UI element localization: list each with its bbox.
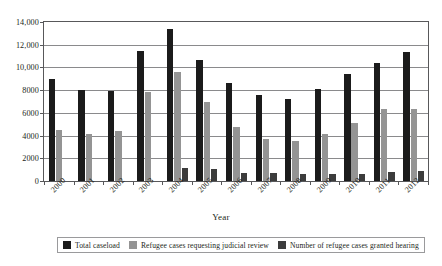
bar bbox=[411, 109, 417, 181]
x-axis-tick bbox=[74, 182, 75, 185]
bar bbox=[204, 102, 210, 181]
legend-swatch-icon bbox=[129, 241, 137, 249]
bar bbox=[403, 52, 409, 181]
bar bbox=[108, 91, 114, 181]
bar bbox=[344, 74, 350, 181]
bar bbox=[263, 139, 269, 181]
bar bbox=[351, 123, 357, 181]
bars-layer bbox=[44, 22, 428, 181]
bar-group bbox=[256, 22, 277, 181]
y-axis-tick bbox=[40, 181, 43, 182]
y-axis-tick-label: 2000 bbox=[22, 154, 39, 163]
bar bbox=[196, 60, 202, 181]
bar bbox=[315, 89, 321, 181]
x-axis-tick bbox=[251, 182, 252, 185]
bar-group bbox=[137, 22, 158, 181]
legend-label: Number of refugee cases granted hearing bbox=[290, 241, 419, 250]
x-axis-tick bbox=[162, 182, 163, 185]
bar bbox=[115, 131, 121, 181]
chart-legend: Total caseloadRefugee cases requesting j… bbox=[57, 237, 425, 253]
x-axis-tick bbox=[44, 182, 45, 185]
bar bbox=[233, 127, 239, 182]
y-axis-tick bbox=[40, 90, 43, 91]
bar bbox=[174, 72, 180, 181]
y-axis-labels: 0200040006000800010,00012,00014,000 bbox=[0, 21, 39, 182]
bar-group bbox=[374, 22, 395, 181]
x-axis-tick bbox=[428, 182, 429, 185]
x-axis-labels: 2000200120022003200420052006200720082009… bbox=[0, 186, 442, 212]
x-axis-tick bbox=[103, 182, 104, 185]
legend-item: Total caseload bbox=[63, 241, 120, 250]
bar bbox=[56, 130, 62, 181]
bar bbox=[322, 134, 328, 181]
bar bbox=[374, 63, 380, 181]
bar-group bbox=[196, 22, 217, 181]
legend-label: Total caseload bbox=[75, 241, 120, 250]
x-axis-tick bbox=[369, 182, 370, 185]
x-axis-tick bbox=[339, 182, 340, 185]
bar-group bbox=[78, 22, 99, 181]
x-axis-tick bbox=[192, 182, 193, 185]
legend-swatch-icon bbox=[63, 241, 71, 249]
y-axis-tick bbox=[40, 22, 43, 23]
x-axis-tick bbox=[398, 182, 399, 185]
x-axis-title: Year bbox=[0, 212, 442, 222]
bar-group bbox=[167, 22, 188, 181]
legend-item: Refugee cases requesting judicial review bbox=[129, 241, 269, 250]
bar bbox=[256, 95, 262, 181]
bar-chart: 0200040006000800010,00012,00014,000 2000… bbox=[0, 0, 442, 266]
bar bbox=[226, 83, 232, 181]
x-axis-tick bbox=[280, 182, 281, 185]
y-axis-tick-label: 0 bbox=[35, 177, 39, 186]
y-axis-tick bbox=[40, 158, 43, 159]
legend-swatch-icon bbox=[278, 241, 286, 249]
bar-group bbox=[403, 22, 424, 181]
y-axis-tick bbox=[40, 113, 43, 114]
y-axis-tick-label: 12,000 bbox=[16, 40, 39, 49]
x-axis-tick bbox=[133, 182, 134, 185]
bar bbox=[86, 134, 92, 181]
bar bbox=[381, 109, 387, 181]
bar-group bbox=[226, 22, 247, 181]
bar-group bbox=[344, 22, 365, 181]
y-axis-tick-label: 6000 bbox=[22, 108, 39, 117]
y-axis-tick bbox=[40, 136, 43, 137]
legend-label: Refugee cases requesting judicial review bbox=[141, 241, 269, 250]
y-axis-tick-label: 10,000 bbox=[16, 63, 39, 72]
bar bbox=[137, 51, 143, 181]
bar-group bbox=[108, 22, 129, 181]
y-axis-tick bbox=[40, 45, 43, 46]
y-axis-tick-label: 14,000 bbox=[16, 18, 39, 27]
bar bbox=[167, 29, 173, 181]
bar bbox=[285, 99, 291, 181]
x-axis-tick bbox=[310, 182, 311, 185]
bar-group bbox=[49, 22, 70, 181]
x-axis-tick bbox=[221, 182, 222, 185]
legend-item: Number of refugee cases granted hearing bbox=[278, 241, 419, 250]
bar bbox=[78, 90, 84, 181]
bar bbox=[292, 141, 298, 181]
bar-group bbox=[285, 22, 306, 181]
y-axis-tick-label: 4000 bbox=[22, 131, 39, 140]
bar bbox=[145, 92, 151, 181]
bar bbox=[49, 79, 55, 181]
y-axis-tick-label: 8000 bbox=[22, 86, 39, 95]
bar-group bbox=[315, 22, 336, 181]
y-axis-tick bbox=[40, 67, 43, 68]
